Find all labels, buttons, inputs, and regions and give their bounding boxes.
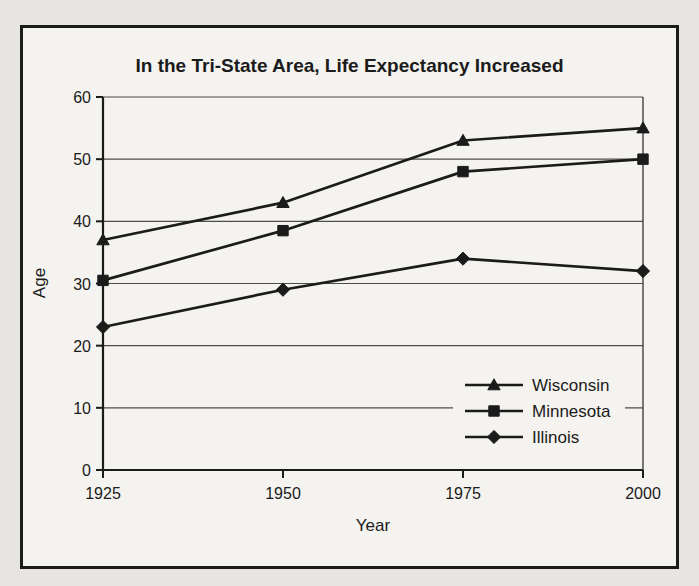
x-tick-label: 1925 bbox=[85, 485, 121, 502]
y-tick-label: 60 bbox=[73, 89, 91, 106]
x-tick-label: 1950 bbox=[265, 485, 301, 502]
legend-marker-square-icon bbox=[489, 406, 499, 416]
y-tick-label: 0 bbox=[82, 462, 91, 479]
data-point-marker-minnesota bbox=[278, 225, 288, 235]
series-line-minnesota bbox=[103, 159, 643, 280]
x-axis-label: Year bbox=[223, 516, 523, 536]
legend-label: Wisconsin bbox=[532, 376, 609, 395]
x-tick-label: 2000 bbox=[625, 485, 661, 502]
data-point-marker-minnesota bbox=[458, 166, 468, 176]
x-tick-label: 1975 bbox=[445, 485, 481, 502]
legend-label: Minnesota bbox=[532, 402, 611, 421]
y-tick-label: 30 bbox=[73, 276, 91, 293]
legend-label: Illinois bbox=[532, 428, 579, 447]
page: 01020304050601925195019752000WisconsinMi… bbox=[0, 0, 699, 586]
y-tick-label: 10 bbox=[73, 400, 91, 417]
chart-title: In the Tri-State Area, Life Expectancy I… bbox=[23, 55, 676, 77]
data-point-marker-minnesota bbox=[638, 154, 648, 164]
y-axis-label: Age bbox=[30, 252, 50, 314]
data-point-marker-illinois bbox=[96, 320, 109, 333]
data-point-marker-minnesota bbox=[98, 275, 108, 285]
y-tick-label: 50 bbox=[73, 151, 91, 168]
y-tick-label: 40 bbox=[73, 213, 91, 230]
data-point-marker-illinois bbox=[456, 252, 469, 265]
line-chart-svg: 01020304050601925195019752000WisconsinMi… bbox=[23, 28, 676, 566]
figure-frame: 01020304050601925195019752000WisconsinMi… bbox=[20, 25, 679, 569]
y-tick-label: 20 bbox=[73, 338, 91, 355]
series-line-wisconsin bbox=[103, 128, 643, 240]
series-line-illinois bbox=[103, 259, 643, 327]
data-point-marker-illinois bbox=[276, 283, 289, 296]
data-point-marker-illinois bbox=[636, 264, 649, 277]
